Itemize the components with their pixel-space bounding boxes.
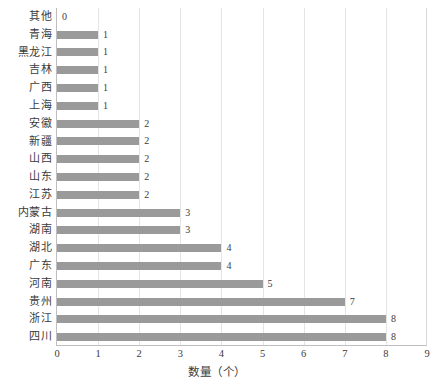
bar-container: 7 <box>57 293 427 311</box>
bar[interactable] <box>57 333 386 341</box>
category-label: 四川 <box>0 328 52 346</box>
bar-row[interactable]: 其他0 <box>0 8 442 26</box>
x-axis-title-label: 数量（个） <box>188 363 246 379</box>
bar-container: 1 <box>57 44 427 62</box>
bar-value-label: 8 <box>391 314 396 324</box>
bar-row[interactable]: 山东2 <box>0 168 442 186</box>
category-label: 贵州 <box>0 293 52 311</box>
bar-row[interactable]: 湖北4 <box>0 239 442 257</box>
bar-row[interactable]: 广东4 <box>0 257 442 275</box>
bar[interactable] <box>57 209 180 217</box>
bar[interactable] <box>57 137 139 145</box>
category-label: 河南 <box>0 275 52 293</box>
category-label: 江苏 <box>0 186 52 204</box>
bar-row[interactable]: 上海1 <box>0 97 442 115</box>
bar[interactable] <box>57 102 98 110</box>
bar-container: 1 <box>57 79 427 97</box>
bar-value-label: 7 <box>350 297 355 307</box>
x-tick-label: 5 <box>260 348 265 359</box>
bar-container: 2 <box>57 150 427 168</box>
category-label: 山西 <box>0 150 52 168</box>
bar-row[interactable]: 四川8 <box>0 328 442 346</box>
bar-container: 8 <box>57 328 427 346</box>
bar-row[interactable]: 吉林1 <box>0 61 442 79</box>
category-label: 内蒙古 <box>0 204 52 222</box>
bar[interactable] <box>57 191 139 199</box>
bar-row[interactable]: 湖南3 <box>0 221 442 239</box>
x-tick-label: 8 <box>383 348 388 359</box>
bar[interactable] <box>57 173 139 181</box>
bar-row[interactable]: 黑龙江1 <box>0 44 442 62</box>
bar-container: 1 <box>57 61 427 79</box>
bar-row[interactable]: 河南5 <box>0 275 442 293</box>
bar-container: 2 <box>57 168 427 186</box>
category-label: 其他 <box>0 8 52 26</box>
bar-value-label: 4 <box>226 261 231 271</box>
bar-value-label: 3 <box>185 225 190 235</box>
bar-row[interactable]: 贵州7 <box>0 293 442 311</box>
bar[interactable] <box>57 66 98 74</box>
bar-container: 4 <box>57 239 427 257</box>
bar-container: 2 <box>57 133 427 151</box>
bar-value-label: 5 <box>268 279 273 289</box>
category-label: 上海 <box>0 97 52 115</box>
bar-value-label: 1 <box>103 101 108 111</box>
bar-row[interactable]: 浙江8 <box>0 310 442 328</box>
bar-container: 5 <box>57 275 427 293</box>
bar[interactable] <box>57 244 221 252</box>
x-tick-label: 6 <box>301 348 306 359</box>
bar[interactable] <box>57 280 263 288</box>
category-label: 吉林 <box>0 61 52 79</box>
bar[interactable] <box>57 48 98 56</box>
bar-container: 1 <box>57 97 427 115</box>
bar-rows: 其他0青海1黑龙江1吉林1广西1上海1安徽2新疆2山西2山东2江苏2内蒙古3湖南… <box>0 8 442 346</box>
bar-value-label: 2 <box>144 119 149 129</box>
bar-row[interactable]: 青海1 <box>0 26 442 44</box>
category-label: 新疆 <box>0 133 52 151</box>
bar-container: 3 <box>57 221 427 239</box>
bar-container: 3 <box>57 204 427 222</box>
bar[interactable] <box>57 120 139 128</box>
bar-value-label: 1 <box>103 47 108 57</box>
bar-row[interactable]: 山西2 <box>0 150 442 168</box>
bar-container: 0 <box>57 8 427 26</box>
bar-value-label: 1 <box>103 65 108 75</box>
x-tick-label: 2 <box>137 348 142 359</box>
bar-row[interactable]: 新疆2 <box>0 133 442 151</box>
category-label: 山东 <box>0 168 52 186</box>
bar[interactable] <box>57 31 98 39</box>
bar-value-label: 3 <box>185 208 190 218</box>
category-label: 青海 <box>0 26 52 44</box>
bar-row[interactable]: 广西1 <box>0 79 442 97</box>
bar-row[interactable]: 安徽2 <box>0 115 442 133</box>
bar[interactable] <box>57 84 98 92</box>
bar-value-label: 2 <box>144 154 149 164</box>
bar-value-label: 2 <box>144 136 149 146</box>
category-label: 湖北 <box>0 239 52 257</box>
x-axis-title: 数量（个） <box>0 363 442 379</box>
bar-container: 8 <box>57 310 427 328</box>
bar[interactable] <box>57 262 221 270</box>
bar[interactable] <box>57 298 345 306</box>
category-label: 广西 <box>0 79 52 97</box>
x-tick-label: 4 <box>219 348 224 359</box>
bar-container: 1 <box>57 26 427 44</box>
bar-value-label: 2 <box>144 190 149 200</box>
x-tick-label: 1 <box>95 348 100 359</box>
bar[interactable] <box>57 155 139 163</box>
x-tick-label: 3 <box>178 348 183 359</box>
bar-row[interactable]: 江苏2 <box>0 186 442 204</box>
bar[interactable] <box>57 315 386 323</box>
bar-value-label: 4 <box>226 243 231 253</box>
bar-row[interactable]: 内蒙古3 <box>0 204 442 222</box>
category-label: 浙江 <box>0 310 52 328</box>
bar-value-label: 2 <box>144 172 149 182</box>
bar-container: 4 <box>57 257 427 275</box>
category-label: 湖南 <box>0 221 52 239</box>
category-label: 黑龙江 <box>0 44 52 62</box>
bar-value-label: 8 <box>391 332 396 342</box>
bar-value-label: 1 <box>103 30 108 40</box>
bar-chart: 其他0青海1黑龙江1吉林1广西1上海1安徽2新疆2山西2山东2江苏2内蒙古3湖南… <box>0 0 442 388</box>
x-tick-label: 7 <box>342 348 347 359</box>
bar[interactable] <box>57 226 180 234</box>
